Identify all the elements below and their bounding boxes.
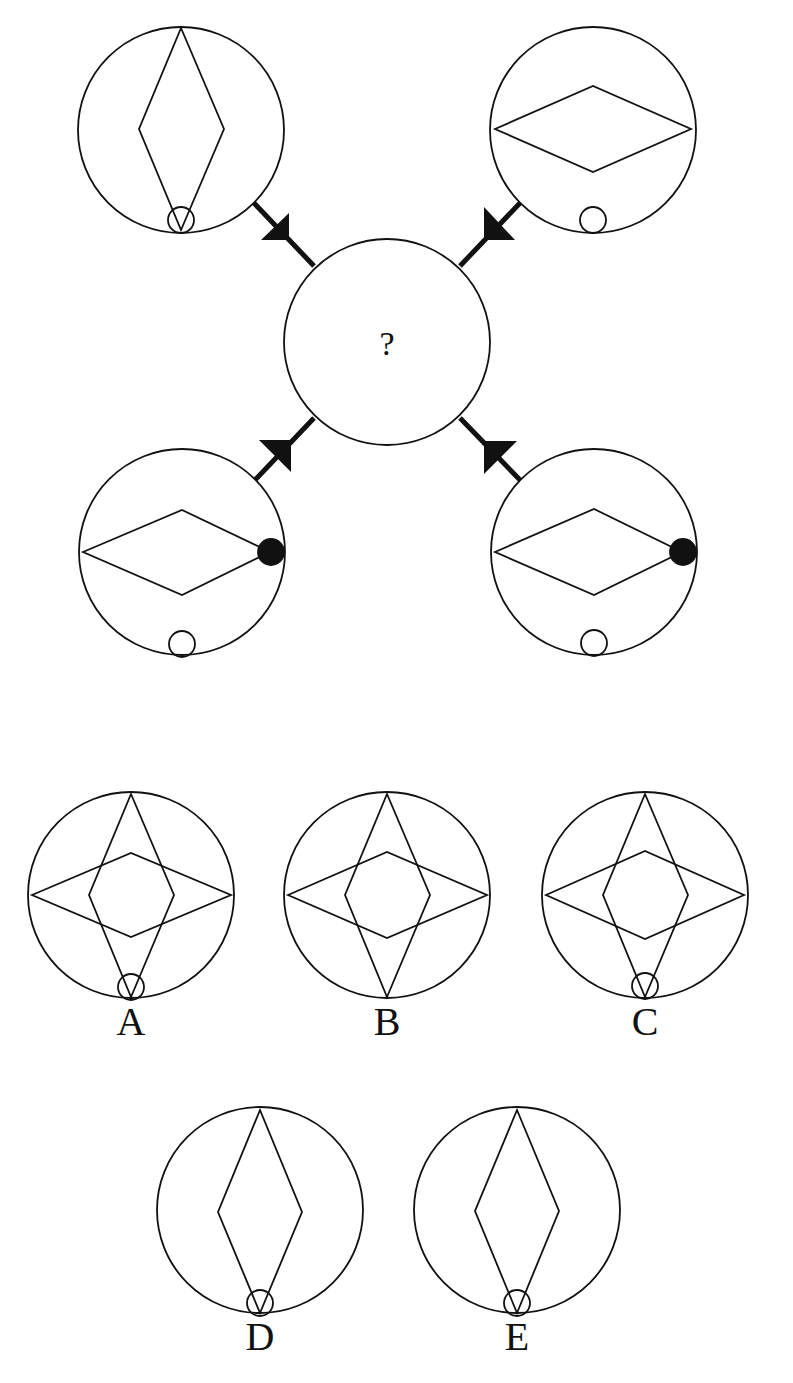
panel-top-right — [490, 27, 696, 233]
option-a-label[interactable]: A — [101, 1002, 161, 1042]
panel-bottom-left — [79, 449, 285, 657]
panel-top-left — [78, 27, 284, 233]
connector-bottom-left — [255, 418, 314, 480]
horizontal-diamond — [495, 86, 691, 172]
horizontal-diamond — [83, 510, 270, 595]
panel-outer-circle — [79, 449, 285, 655]
option-c-figure[interactable] — [542, 792, 748, 999]
puzzle-canvas — [0, 0, 793, 1383]
vertical-diamond — [139, 28, 224, 230]
option-d-figure[interactable] — [157, 1107, 363, 1316]
question-mark: ? — [367, 327, 407, 361]
panel-bottom-right — [491, 449, 697, 656]
option-b-label[interactable]: B — [357, 1002, 417, 1042]
panel-outer-circle — [78, 27, 284, 233]
connector-top-left — [254, 203, 314, 266]
small-circle-icon — [580, 207, 606, 233]
horizontal-diamond — [495, 509, 682, 595]
panel-outer-circle — [490, 27, 696, 233]
connector-bottom-right — [460, 418, 520, 480]
small-circle-icon — [169, 631, 195, 657]
connector-top-right — [460, 203, 520, 266]
option-c-label[interactable]: C — [615, 1002, 675, 1042]
panel-outer-circle — [491, 449, 697, 655]
filled-dot-icon — [258, 539, 284, 565]
small-circle-icon — [581, 630, 607, 656]
option-a-figure[interactable] — [28, 792, 234, 1000]
option-e-figure[interactable] — [414, 1107, 620, 1316]
filled-dot-icon — [670, 539, 696, 565]
option-d-label[interactable]: D — [230, 1317, 290, 1357]
option-b-figure[interactable] — [284, 792, 490, 998]
option-e-label[interactable]: E — [487, 1317, 547, 1357]
